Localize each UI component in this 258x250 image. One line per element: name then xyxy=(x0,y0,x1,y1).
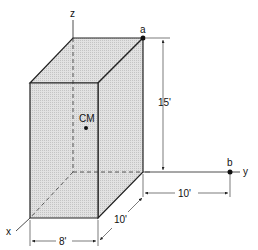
x-axis xyxy=(16,218,30,231)
y-axis-label: y xyxy=(243,166,248,177)
width-dimension-label: 8' xyxy=(59,236,67,247)
height-dimension-label: 15' xyxy=(158,97,171,108)
center-of-mass-dot xyxy=(84,126,88,130)
z-axis-label: z xyxy=(70,8,75,19)
center-of-mass-label: CM xyxy=(79,113,95,124)
point-b-label: b xyxy=(227,157,233,168)
rigid-block-diagram: z y x a b CM 15' 10' 10' 8' xyxy=(0,0,258,250)
point-a xyxy=(141,36,146,41)
depth-dimension-line-upper xyxy=(128,198,142,212)
point-a-label: a xyxy=(140,24,146,35)
offset-dimension-label: 10' xyxy=(178,188,191,199)
front-face xyxy=(30,83,98,218)
depth-dimension-label: 10' xyxy=(114,214,127,225)
point-b xyxy=(228,170,233,175)
depth-dimension-line-lower xyxy=(100,228,112,240)
x-axis-label: x xyxy=(6,226,11,237)
